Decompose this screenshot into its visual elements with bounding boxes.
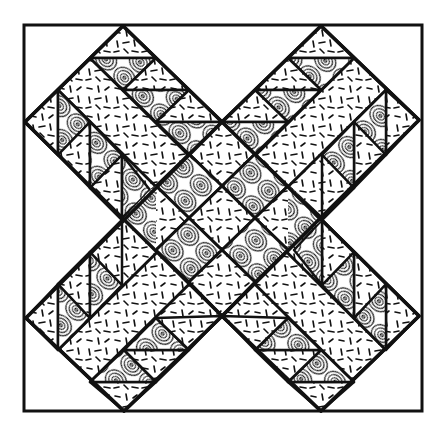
quilt-block-diagram <box>0 0 442 438</box>
